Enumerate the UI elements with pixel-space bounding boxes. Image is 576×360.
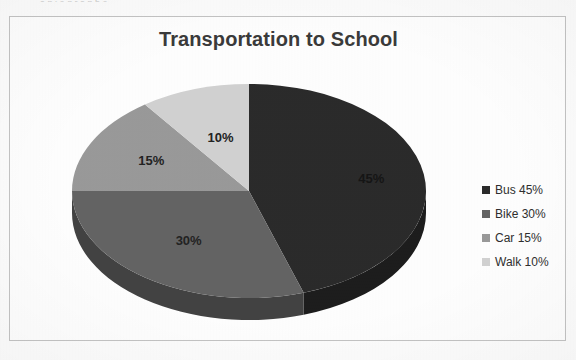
legend-item-walk[interactable]: Walk 10% [482, 250, 576, 274]
pie-data-label-car: 15% [138, 153, 164, 168]
chart-frame: Transportation to School 45%30%15%10% Bu… [9, 16, 566, 341]
pie-data-label-bike: 30% [176, 233, 202, 248]
legend-item-car[interactable]: Car 15% [482, 226, 576, 250]
legend-label-walk: Walk 10% [495, 255, 549, 269]
chart-legend: Bus 45% Bike 30% Car 15% Walk 10% [482, 178, 576, 274]
pie-slices-group [72, 84, 426, 320]
legend-label-car: Car 15% [495, 231, 542, 245]
legend-swatch-walk [482, 258, 490, 266]
pie-data-label-bus: 45% [358, 171, 384, 186]
legend-item-bike[interactable]: Bike 30% [482, 202, 576, 226]
legend-item-bus[interactable]: Bus 45% [482, 178, 576, 202]
legend-swatch-bus [482, 186, 490, 194]
legend-swatch-car [482, 234, 490, 242]
pie-data-label-walk: 10% [208, 130, 234, 145]
legend-swatch-bike [482, 210, 490, 218]
legend-label-bus: Bus 45% [495, 183, 543, 197]
legend-label-bike: Bike 30% [495, 207, 546, 221]
